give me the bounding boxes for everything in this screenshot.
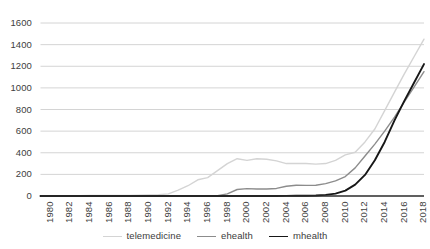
legend-label: mhealth [293, 231, 328, 241]
x-tick-label: 2000 [241, 201, 251, 223]
x-tick-label: 1992 [163, 201, 173, 223]
legend-label: telemedicine [127, 231, 182, 241]
x-tick-label: 2014 [379, 201, 389, 223]
x-tick-label: 2006 [300, 201, 310, 223]
y-tick-label: 800 [0, 105, 32, 115]
x-tick-label: 2010 [340, 201, 350, 223]
legend-item-ehealth[interactable]: ehealth [197, 231, 253, 241]
line-chart: 02004006008001000120014001600 1980198219… [0, 0, 430, 249]
x-tick-label: 1998 [222, 201, 232, 223]
x-tick-label: 1982 [64, 201, 74, 223]
y-tick-label: 200 [0, 169, 32, 179]
y-tick-label: 1200 [0, 61, 32, 71]
y-tick-label: 0 [0, 191, 32, 201]
x-tick-label: 1988 [123, 201, 133, 223]
legend-swatch-ehealth [197, 236, 216, 237]
series-lines [41, 39, 425, 196]
legend-item-mhealth[interactable]: mhealth [269, 231, 328, 241]
legend-item-telemedicine[interactable]: telemedicine [103, 231, 182, 241]
series-line-mhealth [41, 64, 425, 196]
chart-legend: telemedicineehealthmhealth [0, 228, 430, 244]
legend-label: ehealth [221, 231, 253, 241]
y-tick-label: 1600 [0, 18, 32, 28]
x-tick-label: 2002 [261, 201, 271, 223]
x-tick-label: 1996 [202, 201, 212, 223]
x-tick-label: 2016 [399, 201, 409, 223]
x-tick-label: 2008 [320, 201, 330, 223]
x-tick-label: 2004 [281, 201, 291, 223]
y-tick-label: 1000 [0, 83, 32, 93]
gridlines [41, 23, 425, 174]
x-tick-label: 1980 [45, 201, 55, 223]
x-tick-label: 2012 [359, 201, 369, 223]
y-tick-label: 600 [0, 126, 32, 136]
y-tick-label: 400 [0, 148, 32, 158]
series-line-ehealth [41, 72, 425, 196]
x-tick-label: 1990 [143, 201, 153, 223]
x-tick-label: 1986 [104, 201, 114, 223]
x-tick-label: 1984 [84, 201, 94, 223]
x-tick-label: 2018 [418, 201, 428, 223]
legend-swatch-mhealth [269, 236, 288, 237]
y-tick-label: 1400 [0, 40, 32, 50]
legend-swatch-telemedicine [103, 236, 122, 237]
x-tick-label: 1994 [182, 201, 192, 223]
